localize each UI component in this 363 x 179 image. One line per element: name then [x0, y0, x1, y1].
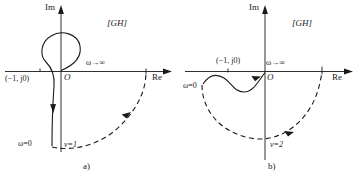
panel-b-real-axis-label: Re	[332, 73, 342, 82]
panel-b-closing-arc	[202, 72, 322, 139]
panel-a-closing-arc	[52, 72, 146, 148]
panel-a-plane-label: [GH]	[107, 19, 127, 28]
panel-a-omega-zero-label: ω=0	[18, 140, 32, 148]
imaginary-axis-arrowhead	[262, 5, 268, 14]
panel-a-omega-infinity-label: ω→∞	[86, 59, 105, 67]
panel-b-omega-infinity-label: ω→∞	[266, 59, 285, 67]
panel-a-real-axis-label: Re	[152, 73, 162, 82]
nyquist-figure: Im Re [GH] O (−1, j0) ω→∞ ω=0 ν=1 a)	[0, 0, 363, 179]
panel-b-graphic	[182, 0, 363, 179]
panel-a-locus-direction-arrow	[50, 104, 56, 113]
panel-a-critical-point-label: (−1, j0)	[5, 75, 29, 83]
panel-a-nu-label: ν=1	[64, 141, 77, 149]
panel-b-critical-point-label: (−1, j0)	[216, 57, 240, 65]
panel-b-imaginary-axis-label: Im	[249, 3, 259, 12]
real-axis-arrowhead	[344, 69, 353, 75]
panel-b: Im Re [GH] O (−1, j0) ω→∞ ω=0 ν=2 b)	[182, 0, 363, 179]
panel-a: Im Re [GH] O (−1, j0) ω→∞ ω=0 ν=1 a)	[0, 0, 181, 179]
panel-b-locus	[203, 73, 265, 93]
panel-a-imaginary-axis-label: Im	[45, 3, 55, 12]
panel-b-plane-label: [GH]	[292, 19, 312, 28]
panel-b-origin-label: O	[267, 73, 274, 82]
panel-a-graphic	[0, 0, 181, 179]
panel-a-caption: a)	[83, 161, 90, 171]
panel-b-omega-zero-label: ω=0	[183, 82, 197, 90]
panel-b-arc-direction-arrow	[284, 131, 294, 137]
panel-b-caption: b)	[268, 161, 276, 171]
panel-a-origin-label: O	[64, 73, 71, 82]
panel-b-nu-label: ν=2	[270, 141, 283, 149]
imaginary-axis-arrowhead	[58, 5, 64, 14]
real-axis-arrowhead	[163, 69, 172, 75]
